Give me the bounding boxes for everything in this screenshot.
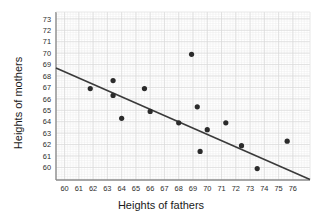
x-tick-label: 62 [89, 184, 97, 193]
x-tick-label: 65 [132, 184, 140, 193]
x-tick-label: 73 [246, 184, 254, 193]
data-point [110, 93, 115, 98]
x-tick-label: 60 [60, 184, 68, 193]
data-point [198, 149, 203, 154]
y-tick-label: 61 [43, 152, 51, 161]
y-tick-label: 67 [43, 83, 51, 92]
y-tick-label: 64 [43, 117, 51, 126]
y-tick-label: 63 [43, 129, 51, 138]
data-point [142, 86, 147, 91]
data-point [176, 120, 181, 125]
x-tick-label: 69 [189, 184, 197, 193]
data-point [285, 139, 290, 144]
x-tick-label: 67 [160, 184, 168, 193]
data-point [88, 86, 93, 91]
x-tick-label: 70 [203, 184, 211, 193]
scatter-plot-figure: 6061626364656667686970717273747576 60616… [0, 0, 322, 215]
x-tick-label: 71 [217, 184, 225, 193]
data-point [255, 166, 260, 171]
y-tick-label: 62 [43, 140, 51, 149]
y-tick-label: 65 [43, 106, 51, 115]
x-tick-label: 66 [146, 184, 154, 193]
y-tick-label: 73 [43, 15, 51, 24]
data-point [195, 104, 200, 109]
x-tick-label: 61 [75, 184, 83, 193]
y-tick-label: 71 [43, 37, 51, 46]
data-point [205, 127, 210, 132]
x-tick-label: 64 [118, 184, 126, 193]
y-tick-label: 68 [43, 72, 51, 81]
x-tick-label: 75 [274, 184, 282, 193]
y-tick-label: 60 [43, 163, 51, 172]
x-tick-label: 74 [260, 184, 268, 193]
y-tick-label: 72 [43, 26, 51, 35]
data-point [189, 52, 194, 57]
data-point [119, 116, 124, 121]
x-tick-label: 68 [175, 184, 183, 193]
data-point [223, 120, 228, 125]
x-axis-tick-labels: 6061626364656667686970717273747576 [60, 184, 297, 193]
x-tick-label: 63 [103, 184, 111, 193]
x-tick-label: 72 [232, 184, 240, 193]
chart-canvas: 6061626364656667686970717273747576 60616… [0, 0, 322, 215]
data-point [110, 78, 115, 83]
data-point [239, 143, 244, 148]
y-axis-title: Heights of mothers [12, 56, 24, 149]
y-tick-label: 70 [43, 49, 51, 58]
y-tick-label: 66 [43, 95, 51, 104]
data-point [148, 109, 153, 114]
x-tick-label: 76 [289, 184, 297, 193]
y-tick-label: 69 [43, 60, 51, 69]
x-axis-title: Heights of fathers [118, 199, 205, 211]
